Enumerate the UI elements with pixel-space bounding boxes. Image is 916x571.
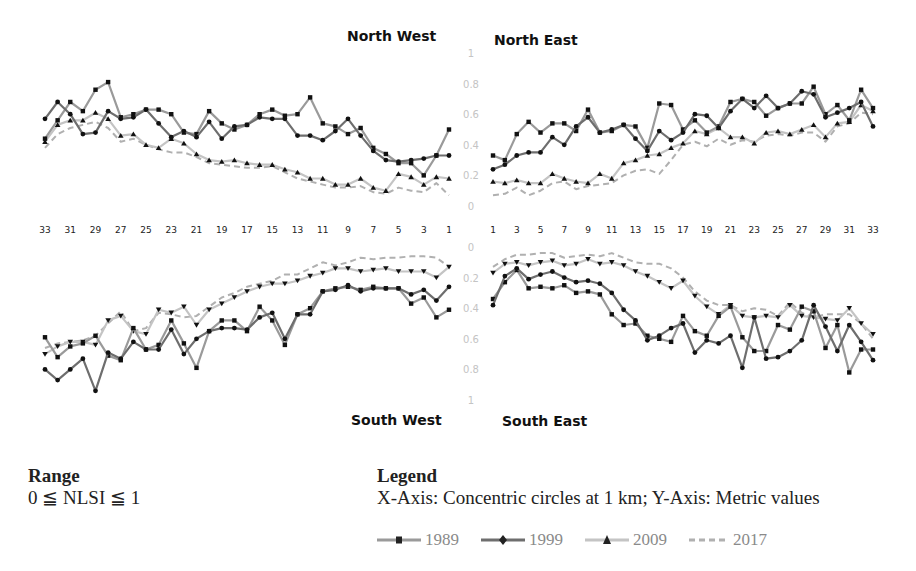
x-tick-east: 19	[701, 225, 713, 235]
y-tick-south: 0.8	[463, 364, 479, 375]
x-tick-west: 29	[90, 225, 102, 235]
series-1999	[43, 283, 452, 393]
x-tick-east: 9	[585, 225, 591, 235]
x-tick-west: 27	[115, 225, 126, 235]
x-tick-west: 13	[292, 225, 303, 235]
chart-panel-south-east	[490, 253, 876, 375]
panel-title-south-west: South West	[351, 412, 442, 428]
legend-heading: Legend	[377, 465, 820, 487]
nlsi-quadrant-chart: 00.20.40.60.8100.20.40.60.81333129272523…	[0, 0, 916, 440]
y-tick-south: 0	[468, 242, 474, 253]
legend-swatch-1999-icon	[481, 534, 525, 546]
x-tick-east: 1	[490, 225, 496, 235]
legend-items: 1989 1999 2009 2017	[377, 530, 767, 550]
panel-title-north-east: North East	[494, 32, 578, 48]
legend-label-2009: 2009	[633, 530, 667, 550]
y-tick-north: 0	[468, 201, 474, 212]
legend-item-2009: 2009	[585, 530, 667, 550]
y-tick-south: 1	[468, 395, 474, 406]
legend-item-1999: 1999	[481, 530, 563, 550]
x-axis-labels: 3331292725232119171513119753113579111315…	[39, 225, 878, 235]
x-tick-east: 17	[677, 225, 688, 235]
series-1989	[491, 84, 875, 162]
x-tick-west: 7	[370, 225, 376, 235]
legend-label-1999: 1999	[529, 530, 563, 550]
chart-panel-north-east	[490, 84, 876, 195]
x-tick-west: 17	[241, 225, 252, 235]
x-tick-west: 25	[140, 225, 151, 235]
chart-panel-north-west	[42, 80, 452, 195]
x-tick-west: 33	[39, 225, 50, 235]
range-text: 0 ≦ NLSI ≦ 1	[28, 487, 140, 509]
x-tick-east: 21	[725, 225, 736, 235]
x-tick-east: 13	[630, 225, 641, 235]
x-tick-east: 7	[561, 225, 567, 235]
legend-block: Legend X-Axis: Concentric circles at 1 k…	[377, 465, 820, 509]
x-tick-west: 23	[166, 225, 177, 235]
series-2009	[42, 265, 452, 357]
legend-description: X-Axis: Concentric circles at 1 km; Y-Ax…	[377, 487, 820, 509]
y-tick-north: 0.6	[463, 109, 479, 120]
x-tick-west: 9	[345, 225, 351, 235]
series-1999	[43, 100, 452, 164]
panel-title-south-east: South East	[502, 413, 587, 429]
range-heading: Range	[28, 465, 140, 487]
panel-title-north-west: North West	[347, 28, 436, 44]
y-tick-south: 0.6	[463, 334, 479, 345]
x-tick-east: 27	[796, 225, 807, 235]
legend-label-2017: 2017	[733, 530, 767, 550]
x-tick-west: 15	[267, 225, 278, 235]
x-tick-west: 1	[446, 225, 452, 235]
x-tick-east: 11	[606, 225, 617, 235]
legend-item-1989: 1989	[377, 530, 459, 550]
x-tick-east: 3	[514, 225, 520, 235]
y-tick-north: 0.8	[463, 79, 479, 90]
legend-swatch-1989-icon	[377, 534, 421, 546]
x-tick-west: 19	[216, 225, 228, 235]
series-2009	[42, 110, 452, 193]
x-tick-east: 23	[749, 225, 760, 235]
y-axis-labels: 00.20.40.60.8100.20.40.60.81	[463, 48, 479, 406]
y-tick-north: 1	[468, 48, 474, 59]
legend-swatch-2017-icon	[689, 534, 729, 546]
x-tick-east: 5	[538, 225, 544, 235]
y-tick-south: 0.4	[463, 303, 479, 314]
series-2017	[45, 122, 449, 196]
chart-panel-south-west	[42, 256, 452, 393]
x-tick-east: 29	[820, 225, 832, 235]
x-tick-west: 5	[396, 225, 402, 235]
x-tick-east: 15	[654, 225, 665, 235]
range-block: Range 0 ≦ NLSI ≦ 1	[28, 465, 140, 509]
x-tick-east: 33	[867, 225, 878, 235]
x-tick-west: 3	[421, 225, 427, 235]
x-tick-east: 25	[772, 225, 783, 235]
legend-label-1989: 1989	[425, 530, 459, 550]
x-tick-east: 31	[844, 225, 855, 235]
x-tick-west: 11	[317, 225, 328, 235]
y-tick-south: 0.2	[463, 273, 479, 284]
y-tick-north: 0.4	[463, 140, 479, 151]
legend-swatch-2009-icon	[585, 534, 629, 546]
y-tick-north: 0.2	[463, 170, 479, 181]
legend-item-2017: 2017	[689, 530, 767, 550]
x-tick-west: 21	[191, 225, 202, 235]
x-tick-west: 31	[65, 225, 76, 235]
